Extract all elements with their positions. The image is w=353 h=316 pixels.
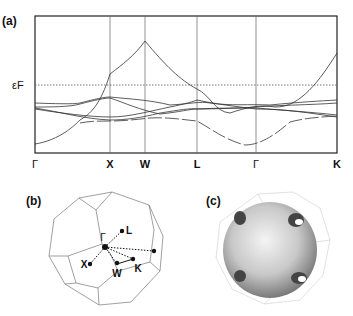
fermi-surface-render xyxy=(0,0,353,316)
